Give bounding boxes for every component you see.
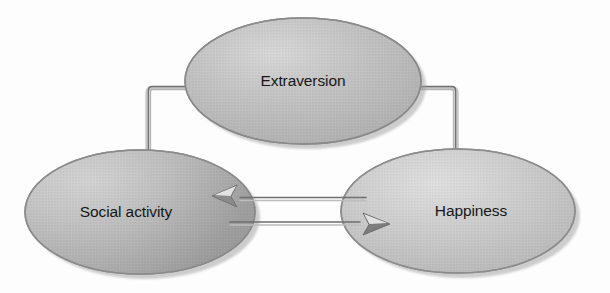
extraversion-label: Extraversion bbox=[261, 72, 346, 89]
concept-diagram: Social activity Happiness Extraversion bbox=[0, 0, 610, 293]
happiness-label: Happiness bbox=[435, 202, 508, 219]
diagram-canvas: Social activity Happiness Extraversion bbox=[0, 0, 610, 293]
social-activity-label: Social activity bbox=[80, 203, 173, 220]
node-happiness[interactable]: Happiness bbox=[341, 149, 580, 278]
node-extraversion[interactable]: Extraversion bbox=[185, 18, 426, 149]
node-social-activity[interactable]: Social activity bbox=[25, 150, 260, 279]
